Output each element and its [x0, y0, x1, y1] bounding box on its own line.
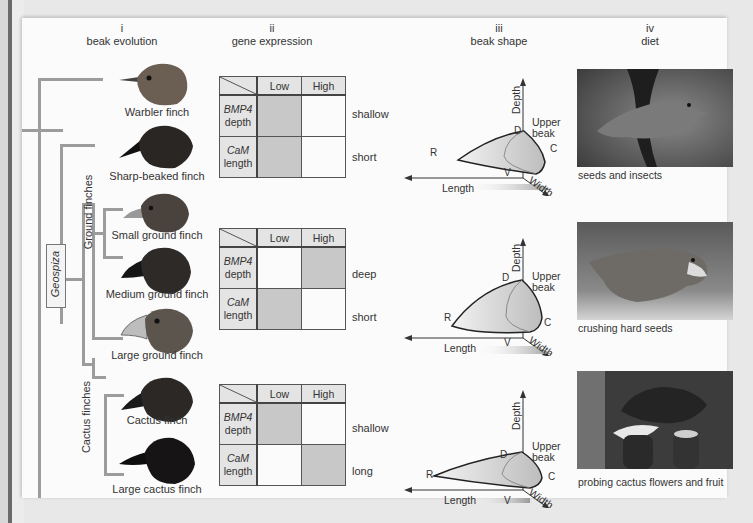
point-label-d: D: [502, 272, 509, 283]
tree-root-vertical: [38, 78, 41, 498]
cell-high-active: [302, 247, 346, 289]
cell-low: [257, 247, 302, 289]
gene-name: CaM: [227, 144, 249, 156]
column-numeral: ii: [212, 22, 332, 35]
trait-name: length: [224, 157, 253, 169]
tree-root-stub: [22, 129, 39, 132]
trait-name: depth: [225, 268, 251, 280]
column-title: gene expression: [212, 35, 332, 48]
column-header-diet: iv diet: [610, 22, 690, 48]
point-label-c: C: [548, 471, 555, 482]
finch-head-icon-large-cactus: [117, 434, 197, 486]
tree-branch-warbler: [38, 78, 103, 81]
figure-panel: i beak evolution ii gene expression iii …: [22, 18, 727, 498]
gene-name: BMP4: [224, 255, 253, 267]
diet-caption: seeds and insects: [578, 169, 662, 181]
header-high: High: [302, 229, 346, 248]
gene-name: BMP4: [224, 103, 253, 115]
gene-table-2: Low High BMP4depth CaMlength: [219, 228, 346, 330]
diet-photo-1: [577, 69, 733, 167]
row-header-bmp4: BMP4depth: [220, 95, 258, 137]
beak-shape-diagram-3: D R V C Upper beak Depth Length Width: [402, 378, 567, 508]
warbler-finch-photo-icon: [577, 69, 733, 167]
column-header-gene-expression: ii gene expression: [212, 22, 332, 48]
finch-head-icon-sharp-beaked: [117, 120, 197, 172]
outcome-length: short: [352, 311, 376, 323]
column-numeral: iii: [439, 22, 559, 35]
table-corner: [220, 229, 258, 248]
point-label-d: D: [514, 125, 521, 136]
outcome-length: long: [352, 465, 373, 477]
table-corner: [220, 385, 258, 404]
point-label-v: V: [504, 167, 511, 178]
cell-low-active: [257, 289, 302, 330]
finch-name: Sharp-beaked finch: [87, 170, 227, 182]
point-label-d: D: [500, 449, 507, 460]
row-header-bmp4: BMP4depth: [220, 403, 258, 445]
cell-low: [257, 445, 302, 486]
point-label-v: V: [504, 337, 511, 348]
finch-name: Large cactus finch: [87, 483, 227, 495]
diet-photo-3: [577, 371, 733, 469]
finch-head-icon-warbler: [117, 58, 197, 110]
cell-high: [302, 137, 346, 178]
gene-table-1: Low High BMP4depth CaMlength: [219, 76, 346, 178]
svg-text:Upper beak: Upper beak: [532, 440, 564, 463]
cactus-finch-photo-icon: [577, 371, 733, 469]
row-header-cam: CaMlength: [220, 445, 258, 486]
tree-branch-node2: [38, 129, 63, 132]
tree-cactus-join: [92, 376, 106, 379]
trait-name: depth: [225, 424, 251, 436]
column-numeral: iv: [610, 22, 690, 35]
outcome-depth: shallow: [352, 422, 389, 434]
axis-label-depth: Depth: [510, 86, 522, 114]
column-title: beak shape: [439, 35, 559, 48]
column-title: beak evolution: [62, 35, 182, 48]
finch-name: Cactus finch: [87, 414, 227, 426]
gene-name: CaM: [227, 296, 249, 308]
finch-name: Medium ground finch: [87, 288, 227, 300]
point-label-r: R: [426, 469, 433, 480]
tree-branch-sharp-beaked: [60, 144, 95, 147]
column-header-beak-evolution: i beak evolution: [62, 22, 182, 48]
point-label-c: C: [550, 143, 557, 154]
axis-label-length: Length: [444, 342, 476, 354]
trait-name: depth: [225, 116, 251, 128]
column-numeral: i: [62, 22, 182, 35]
row-header-cam: CaMlength: [220, 137, 258, 178]
tree-cactus-vertical: [104, 394, 107, 475]
gene-name: CaM: [227, 452, 249, 464]
axis-label-width: Width: [527, 486, 556, 508]
upper-beak-label-2: beak: [532, 281, 556, 293]
header-high: High: [302, 77, 346, 96]
ground-finch-photo-icon: [577, 222, 733, 320]
axis-label-depth: Depth: [510, 244, 522, 272]
header-low: Low: [257, 229, 302, 248]
outcome-length: short: [352, 151, 376, 163]
outcome-depth: shallow: [352, 108, 389, 120]
svg-text:Upper beak: Upper beak: [532, 270, 564, 293]
trait-name: length: [224, 309, 253, 321]
left-margin: [0, 0, 8, 523]
svg-text:Upper beak: Upper beak: [532, 116, 564, 139]
upper-beak-label-2: beak: [532, 127, 556, 139]
cell-high-active: [302, 445, 346, 486]
point-label-c: C: [544, 317, 551, 328]
cell-low-active: [257, 403, 302, 445]
point-label-v: V: [504, 495, 511, 506]
row-header-cam: CaMlength: [220, 289, 258, 330]
upper-beak-label-2: beak: [532, 451, 556, 463]
tree-cactus-stem: [92, 358, 95, 378]
beak-shape-diagram-1: D R V C Upper beak Depth Length Width: [402, 66, 567, 196]
finch-name: Small ground finch: [87, 229, 227, 241]
table-corner: [220, 77, 258, 96]
header-low: Low: [257, 77, 302, 96]
point-label-r: R: [430, 147, 437, 158]
cell-low-active: [257, 137, 302, 178]
finch-name: Warbler finch: [87, 106, 227, 118]
gene-name: BMP4: [224, 411, 253, 423]
outcome-depth: deep: [352, 268, 376, 280]
axis-label-length: Length: [442, 182, 474, 194]
diet-caption: crushing hard seeds: [578, 322, 673, 334]
cell-high: [302, 289, 346, 330]
